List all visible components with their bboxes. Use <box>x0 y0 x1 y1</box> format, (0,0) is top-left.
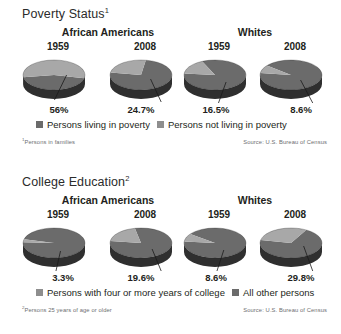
group-label-whites-poverty: Whites <box>196 26 314 38</box>
poverty-title-superscript: 1 <box>105 6 109 15</box>
group-label-african-americans-poverty: African Americans <box>38 26 178 38</box>
legend-item-four-or-more-years-college: Persons with four or more years of colle… <box>36 287 225 298</box>
year-label-wh-2008-college: 2008 <box>272 209 318 220</box>
pie-chart-aa-1959-poverty <box>21 52 97 102</box>
legend-item-all-other-persons: All other persons <box>232 287 314 298</box>
legend-label-not-living-in-poverty: Persons not living in poverty <box>168 119 287 130</box>
pct-label-aa-2008-poverty: 24.7% <box>113 104 169 115</box>
pct-label-aa-1959-poverty: 56% <box>31 104 87 115</box>
pie-chart-aa-2008-poverty <box>108 52 184 102</box>
legend-swatch-not-living-in-poverty <box>157 121 164 128</box>
poverty-status-panel: Poverty Status1 African Americans Whites… <box>0 0 341 168</box>
footnote-college: 2Persons 25 years of age or older <box>22 307 112 313</box>
pie-chart-wh-1959-poverty <box>182 52 258 102</box>
pie-chart-wh-2008-college <box>258 220 334 270</box>
legend-swatch-living-in-poverty <box>36 121 43 128</box>
group-label-african-americans-college: African Americans <box>38 194 178 206</box>
pie-chart-wh-1959-college <box>182 220 258 270</box>
year-label-aa-1959-poverty: 1959 <box>35 41 81 52</box>
legend-poverty: Persons living in poverty Persons not li… <box>0 119 341 133</box>
pie-chart-wh-2008-poverty <box>258 52 334 102</box>
footnote-text-college: Persons 25 years of age or older <box>25 307 112 313</box>
year-label-wh-1959-college: 1959 <box>196 209 242 220</box>
legend-college: Persons with four or more years of colle… <box>0 287 341 301</box>
college-section-title: College Education2 <box>22 175 129 189</box>
legend-label-living-in-poverty: Persons living in poverty <box>47 119 150 130</box>
legend-item-living-in-poverty: Persons living in poverty <box>36 119 150 130</box>
footnote-text-poverty: Persons in families <box>25 139 76 145</box>
legend-swatch-four-or-more-years-college <box>36 289 43 296</box>
year-label-aa-2008-college: 2008 <box>122 209 168 220</box>
legend-swatch-all-other-persons <box>232 289 239 296</box>
legend-item-not-living-in-poverty: Persons not living in poverty <box>157 119 287 130</box>
year-label-wh-2008-poverty: 2008 <box>272 41 318 52</box>
poverty-section-title-text: Poverty Status <box>22 7 105 21</box>
poverty-section-title: Poverty Status1 <box>22 7 109 21</box>
college-education-panel: College Education2 African Americans Whi… <box>0 168 341 334</box>
pct-label-aa-1959-college: 3.3% <box>35 272 91 283</box>
year-label-wh-1959-poverty: 1959 <box>196 41 242 52</box>
legend-label-all-other-persons: All other persons <box>243 287 314 298</box>
pie-chart-aa-2008-college <box>108 220 184 270</box>
source-poverty: Source: U.S. Bureau of Census <box>243 139 327 145</box>
pct-label-wh-1959-college: 8.6% <box>188 272 244 283</box>
college-title-superscript: 2 <box>125 174 129 183</box>
pct-label-wh-2008-poverty: 8.6% <box>273 104 329 115</box>
group-label-whites-college: Whites <box>196 194 314 206</box>
college-section-title-text: College Education <box>22 175 125 189</box>
legend-label-four-or-more-years-college: Persons with four or more years of colle… <box>47 287 225 298</box>
footnote-poverty: 1Persons in families <box>22 139 75 145</box>
pie-chart-aa-1959-college <box>21 220 97 270</box>
pct-label-aa-2008-college: 19.6% <box>113 272 169 283</box>
pct-label-wh-1959-poverty: 16.5% <box>188 104 244 115</box>
year-label-aa-2008-poverty: 2008 <box>122 41 168 52</box>
source-college: Source: U.S. Bureau of Census <box>243 307 327 313</box>
pct-label-wh-2008-college: 29.8% <box>273 272 329 283</box>
year-label-aa-1959-college: 1959 <box>35 209 81 220</box>
